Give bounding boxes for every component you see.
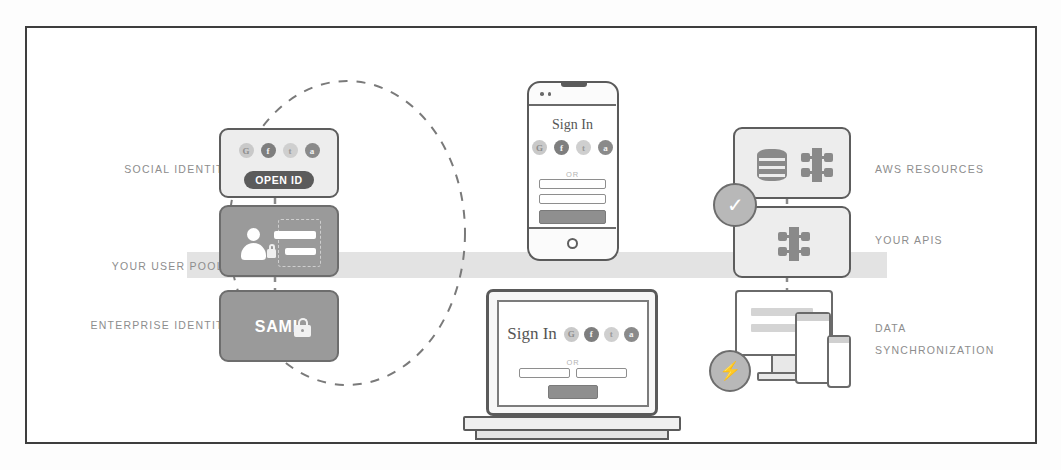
user-head-icon xyxy=(247,228,260,241)
aws-service-icon xyxy=(801,148,833,182)
open-id-pill[interactable]: OPEN ID xyxy=(244,171,313,189)
facebook-icon[interactable]: f xyxy=(584,327,599,342)
diagram-canvas: SOCIAL IDENTITY YOUR USER POOLS ENTERPRI… xyxy=(0,0,1061,470)
phone-signin-heading: Sign In xyxy=(552,117,593,132)
laptop-or-divider: OR xyxy=(566,358,579,367)
credential-lock-body xyxy=(267,249,276,258)
twitter-icon[interactable]: t xyxy=(576,140,591,155)
diagram-frame: SOCIAL IDENTITY YOUR USER POOLS ENTERPRI… xyxy=(25,26,1037,444)
laptop-foot xyxy=(475,431,669,440)
lightning-bolt-badge: ⚡ xyxy=(709,350,751,392)
phone-mockup[interactable]: Sign In G f t a OR xyxy=(527,81,619,261)
google-icon[interactable]: G xyxy=(532,140,547,155)
twitter-icon[interactable]: t xyxy=(604,327,619,342)
check-badge: ✓ xyxy=(713,183,757,227)
open-id-pill-wrap: OPEN ID xyxy=(221,170,337,189)
phone-submit-button[interactable] xyxy=(539,210,606,224)
saml-row: SAML xyxy=(221,318,337,336)
phone-screen: Sign In G f t a OR xyxy=(529,104,616,229)
label-enterprise-identity: ENTERPRISE IDENTITY xyxy=(27,318,232,332)
user-pools-card[interactable] xyxy=(219,205,339,277)
laptop-lid: Sign In G f t a OR xyxy=(486,289,658,416)
api-gateway-icon xyxy=(778,227,810,261)
tablet-icon xyxy=(795,312,831,384)
laptop-base xyxy=(463,416,681,431)
social-identity-card[interactable]: G f t a OPEN ID xyxy=(219,128,339,198)
laptop-password-field[interactable] xyxy=(576,368,627,378)
label-data-sync-line2: SYNCHRONIZATION xyxy=(875,343,1045,357)
phone-or-divider: OR xyxy=(566,170,579,179)
home-button[interactable] xyxy=(567,238,578,249)
amazon-icon[interactable]: a xyxy=(598,140,613,155)
label-aws-resources: AWS RESOURCES xyxy=(875,162,1035,176)
directory-outline xyxy=(278,219,321,267)
laptop-signin-heading: Sign In xyxy=(507,324,557,344)
phone-password-field[interactable] xyxy=(539,194,606,204)
google-icon[interactable]: G xyxy=(239,143,254,158)
label-your-apis: YOUR APIS xyxy=(875,233,1035,247)
label-your-user-pools: YOUR USER POOLS xyxy=(47,259,232,273)
twitter-icon[interactable]: t xyxy=(283,143,298,158)
phone-camera-row xyxy=(540,92,551,96)
laptop-signin-row: Sign In G f t a xyxy=(499,324,647,344)
record-bar-2 xyxy=(285,248,316,255)
label-social-identity: SOCIAL IDENTITY xyxy=(47,162,232,176)
credential-lock-shackle xyxy=(269,244,275,250)
phone-provider-row: G f t a xyxy=(529,140,616,155)
google-icon[interactable]: G xyxy=(564,327,579,342)
label-data-sync-line1: DATA xyxy=(875,321,1045,335)
user-body-icon xyxy=(241,243,266,260)
facebook-icon[interactable]: f xyxy=(261,143,276,158)
record-bar-1 xyxy=(274,231,316,239)
smartphone-icon xyxy=(827,335,851,388)
aws-resources-card[interactable] xyxy=(733,127,851,199)
social-provider-row: G f t a xyxy=(221,143,337,158)
amazon-icon[interactable]: a xyxy=(305,143,320,158)
phone-home-button-wrap xyxy=(529,238,616,249)
laptop-provider-row: G f t a xyxy=(564,327,639,342)
laptop-username-field[interactable] xyxy=(519,368,570,378)
phone-speaker-notch xyxy=(561,81,587,87)
facebook-icon[interactable]: f xyxy=(554,140,569,155)
label-data-synchronization: DATA SYNCHRONIZATION xyxy=(875,321,1045,357)
phone-username-field[interactable] xyxy=(539,179,606,189)
amazon-icon[interactable]: a xyxy=(624,327,639,342)
laptop-screen: Sign In G f t a OR xyxy=(497,300,649,407)
database-icon xyxy=(757,149,787,181)
laptop-submit-button[interactable] xyxy=(548,385,598,399)
monitor-neck xyxy=(771,356,797,372)
padlock-icon xyxy=(294,318,311,337)
enterprise-identity-card[interactable]: SAML xyxy=(219,290,339,362)
